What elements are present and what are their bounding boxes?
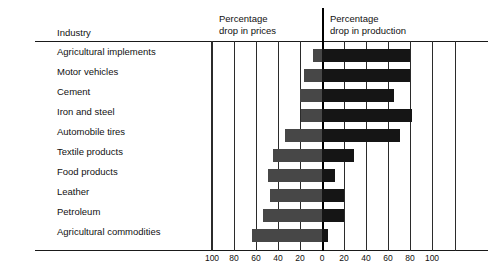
axis-tick-label: 60 [244, 253, 268, 263]
bar-price-drop [263, 209, 322, 222]
axis-tick-label: 100 [420, 253, 444, 263]
column-title-industry: Industry [57, 27, 91, 39]
bar-row [0, 46, 488, 66]
bar-price-drop [313, 49, 322, 62]
axis-tick-label: 40 [266, 253, 290, 263]
bar-price-drop [304, 69, 322, 82]
bar-row [0, 186, 488, 206]
bar-row [0, 86, 488, 106]
bidirectional-bar-chart: Industry Percentage drop in prices Perce… [0, 0, 488, 276]
bar-row [0, 166, 488, 186]
axis-tick-label: 20 [332, 253, 356, 263]
axis-tick-label: 40 [354, 253, 378, 263]
axis-tick-label: 20 [288, 253, 312, 263]
bar-production-drop [322, 129, 400, 142]
axis-tick-label: 60 [376, 253, 400, 263]
bar-production-drop [322, 189, 344, 202]
bar-price-drop [273, 149, 323, 162]
axis-baseline-rule [35, 250, 488, 251]
bar-price-drop [270, 189, 322, 202]
bar-row [0, 66, 488, 86]
bar-production-drop [322, 169, 335, 182]
axis-tick-label: 100 [200, 253, 224, 263]
bar-production-drop [322, 209, 344, 222]
bar-row [0, 226, 488, 246]
bar-row [0, 106, 488, 126]
bar-row [0, 146, 488, 166]
bar-production-drop [322, 149, 354, 162]
bar-production-drop [322, 109, 412, 122]
bar-price-drop [300, 89, 322, 102]
column-title-percentage-drop-in-prices: Percentage drop in prices [219, 13, 276, 36]
bar-production-drop [322, 69, 410, 82]
bar-production-drop [322, 229, 328, 242]
bar-price-drop [268, 169, 322, 182]
axis-tick-label: 0 [310, 253, 334, 263]
axis-tick-label: 80 [398, 253, 422, 263]
plot-area [0, 41, 488, 250]
bar-row [0, 206, 488, 226]
bar-price-drop [285, 129, 322, 142]
bar-price-drop [252, 229, 322, 242]
axis-tick-label: 80 [222, 253, 246, 263]
column-title-percentage-drop-in-production: Percentage drop in production [330, 13, 406, 36]
bar-production-drop [322, 89, 394, 102]
bar-production-drop [322, 49, 410, 62]
bar-row [0, 126, 488, 146]
bar-price-drop [301, 109, 322, 122]
